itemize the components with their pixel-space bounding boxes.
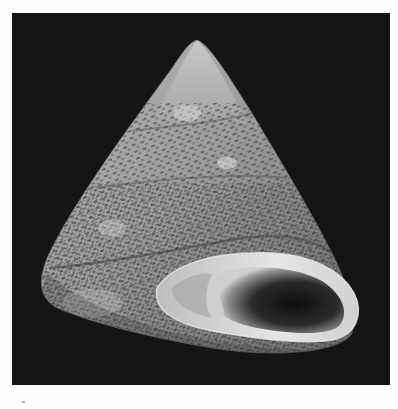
image-frame [0, 0, 398, 409]
shell-photograph [12, 13, 390, 385]
shell-illustration [12, 13, 390, 385]
scan-speck [22, 401, 25, 403]
